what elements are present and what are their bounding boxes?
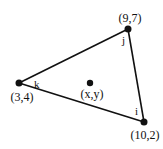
interior-point-label: (x,y): [81, 87, 104, 101]
vertex-i-dot: [141, 119, 148, 126]
vertex-i-name: i: [135, 105, 138, 117]
edge-j-k: [19, 29, 128, 83]
vertex-j-name: j: [121, 34, 125, 46]
interior-point-dot: [87, 80, 93, 86]
vertex-j-dot: [125, 26, 132, 33]
triangle-diagram: (9,7) (3,4) (10,2) (x,y) j k i: [0, 0, 163, 149]
vertex-k-name: k: [34, 78, 40, 90]
vertex-k-coord-label: (3,4): [11, 90, 34, 104]
vertex-i-coord-label: (10,2): [131, 128, 160, 142]
vertex-k-dot: [16, 80, 23, 87]
vertex-j-coord-label: (9,7): [119, 11, 142, 25]
